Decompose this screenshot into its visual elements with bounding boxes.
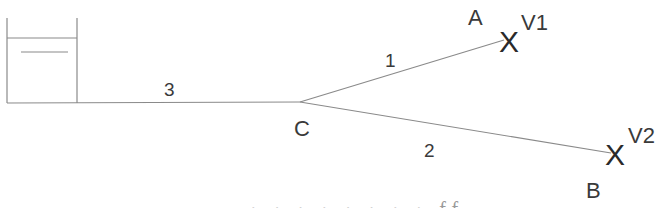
valve-v2-label: V2 [628,123,655,148]
pipe-3-label: 3 [164,79,175,100]
valve-v1-label: V1 [521,10,548,35]
cutoff-caption-fragment: · · · · · · · · ff [250,200,464,208]
pipe-3 [7,102,300,103]
pipe-network-diagram: 3 1 2 C A B X V1 X V2 [0,0,663,208]
node-a-label: A [468,5,483,30]
pipe-1 [300,40,504,102]
valve-v1-icon: X [499,25,519,58]
valve-v2-icon: X [605,138,625,171]
pipe-1-label: 1 [385,50,396,71]
pipe-2-label: 2 [424,140,435,161]
pipe-2 [300,102,611,153]
junction-c-label: C [294,116,310,141]
cutoff-caption-text: · · · · · · · · ff [250,200,650,208]
reservoir-tank [7,18,77,103]
